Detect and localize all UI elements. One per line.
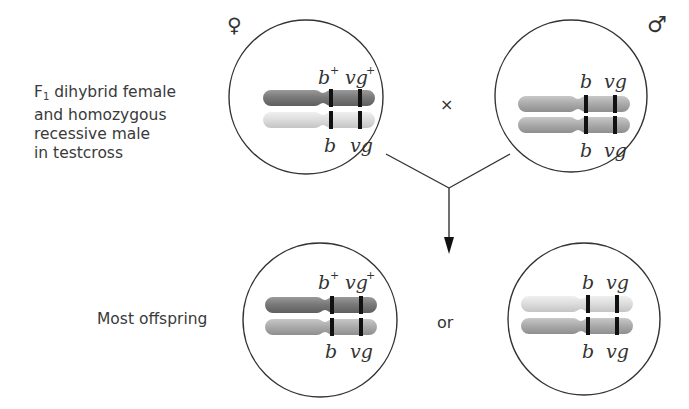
allele-vg: vg: [350, 134, 373, 156]
allele-vg: vg: [350, 340, 373, 362]
allele-b: b: [580, 139, 592, 161]
testcross-diagram: F1 dihybrid female and homozygous recess…: [0, 0, 689, 409]
allele-vg: vg: [606, 271, 629, 293]
male-symbol-icon: ♂: [647, 12, 667, 37]
cell-offspring-wildtype: b + vg + b vg: [243, 243, 397, 397]
female-symbol-icon: ♀: [227, 13, 242, 37]
allele-b: b: [580, 70, 592, 92]
allele-vg: vg: [604, 139, 627, 161]
cross-symbol: ×: [440, 95, 453, 114]
allele-b: b: [325, 340, 337, 362]
diagram-graphics: ♀ ♂ × or b + vg + b vg: [0, 0, 689, 409]
allele-vg: vg: [604, 70, 627, 92]
cross-connector: [386, 154, 510, 240]
superscript-plus: +: [330, 64, 339, 77]
allele-b: b: [582, 340, 594, 362]
allele-vg-plus: vg: [345, 66, 368, 88]
cell-male-parent: b vg b vg: [495, 20, 647, 172]
allele-vg: vg: [606, 340, 629, 362]
cell-female-parent: b + vg + b vg: [229, 20, 383, 174]
superscript-plus: +: [366, 269, 375, 282]
superscript-plus: +: [330, 269, 339, 282]
allele-b-plus: b: [318, 66, 330, 88]
allele-b-plus: b: [318, 271, 330, 293]
allele-vg-plus: vg: [345, 271, 368, 293]
superscript-plus: +: [366, 64, 375, 77]
cell-offspring-mutant: b vg b vg: [508, 243, 660, 395]
allele-b: b: [582, 271, 594, 293]
allele-b: b: [324, 134, 336, 156]
or-label: or: [437, 313, 454, 332]
arrow-down-icon: [444, 237, 454, 254]
